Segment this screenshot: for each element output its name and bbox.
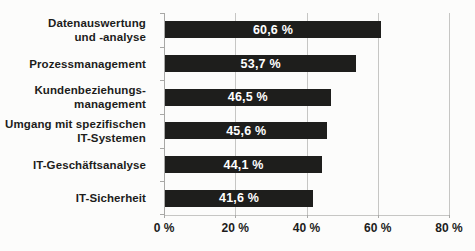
x-tick-label: 80 % xyxy=(435,221,462,235)
x-axis-labels: 0 %20 %40 %60 %80 % xyxy=(0,221,475,237)
y-tick xyxy=(160,13,164,14)
x-tick xyxy=(164,215,165,218)
bar-value-label: 44,1 % xyxy=(165,156,322,173)
category-label: Datenauswertungund -analyse xyxy=(0,13,155,47)
bar-value-label: 41,6 % xyxy=(165,190,313,207)
bar-5: 44,1 % xyxy=(165,156,322,173)
category-labels: Datenauswertungund -analyseProzessmanage… xyxy=(0,13,155,215)
bar-value-label: 45,6 % xyxy=(165,122,327,139)
bar-value-label: 53,7 % xyxy=(165,55,356,72)
bar-value-label: 60,6 % xyxy=(165,21,381,38)
bar-2: 53,7 % xyxy=(165,55,356,72)
x-tick-label: 20 % xyxy=(222,221,249,235)
y-tick xyxy=(160,181,164,182)
bar-row: 41,6 % xyxy=(165,181,450,215)
x-tick xyxy=(235,215,236,218)
y-tick xyxy=(160,80,164,81)
bar-row: 60,6 % xyxy=(165,13,450,47)
x-tick xyxy=(449,215,450,218)
bar-6: 41,6 % xyxy=(165,190,313,207)
x-tick-label: 40 % xyxy=(293,221,320,235)
y-tick xyxy=(160,47,164,48)
bar-row: 46,5 % xyxy=(165,80,450,114)
bar-1: 60,6 % xyxy=(165,21,381,38)
bar-row: 53,7 % xyxy=(165,47,450,81)
x-tick-label: 0 % xyxy=(154,221,175,235)
x-tick xyxy=(307,215,308,218)
bar-value-label: 46,5 % xyxy=(165,89,331,106)
bar-row: 45,6 % xyxy=(165,114,450,148)
bar-row: 44,1 % xyxy=(165,148,450,182)
category-label: Umgang mit spezifischenIT-Systemen xyxy=(0,114,155,148)
category-label: Prozessmanagement xyxy=(0,47,155,81)
x-tick-label: 60 % xyxy=(364,221,391,235)
horizontal-bar-chart: Datenauswertungund -analyseProzessmanage… xyxy=(0,0,475,251)
bar-3: 46,5 % xyxy=(165,89,331,106)
x-tick xyxy=(378,215,379,218)
plot-area: 60,6 %53,7 %46,5 %45,6 %44,1 %41,6 % xyxy=(164,13,450,216)
y-tick xyxy=(160,148,164,149)
y-tick xyxy=(160,114,164,115)
bar-series: 60,6 %53,7 %46,5 %45,6 %44,1 %41,6 % xyxy=(165,13,450,215)
category-label: IT-Geschäftsanalyse xyxy=(0,148,155,182)
category-label: IT-Sicherheit xyxy=(0,181,155,215)
category-label: Kundenbeziehungs-management xyxy=(0,80,155,114)
bar-4: 45,6 % xyxy=(165,122,327,139)
